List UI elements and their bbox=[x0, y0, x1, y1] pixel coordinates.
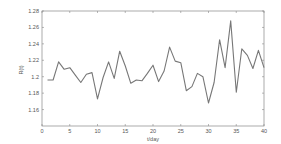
x-tick-label: 5 bbox=[68, 128, 71, 134]
x-tick-label: 10 bbox=[94, 128, 100, 134]
y-tick-label: 1.18 bbox=[28, 90, 39, 96]
y-tick-label: 1.24 bbox=[28, 41, 39, 47]
y-tick-label: 1.28 bbox=[28, 8, 39, 14]
y-tick-label: 1.2 bbox=[31, 74, 39, 80]
x-tick-label: 15 bbox=[122, 128, 128, 134]
y-tick-label: 1.22 bbox=[28, 57, 39, 63]
y-axis-label: R(t) bbox=[18, 65, 24, 74]
line-chart: 1.161.181.21.221.241.261.28 051015202530… bbox=[0, 0, 281, 144]
x-tick-label: 30 bbox=[205, 128, 211, 134]
x-axis-label: t/day bbox=[147, 136, 159, 142]
x-tick-label: 0 bbox=[40, 128, 43, 134]
y-tick-label: 1.26 bbox=[28, 24, 39, 30]
x-tick-label: 25 bbox=[178, 128, 184, 134]
plot-area bbox=[42, 11, 264, 126]
x-tick-label: 20 bbox=[150, 128, 156, 134]
y-tick-label: 1.16 bbox=[28, 107, 39, 113]
x-tick-label: 40 bbox=[261, 128, 267, 134]
x-tick-label: 35 bbox=[233, 128, 239, 134]
